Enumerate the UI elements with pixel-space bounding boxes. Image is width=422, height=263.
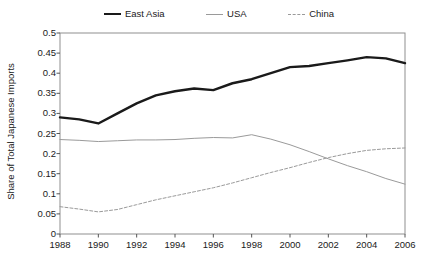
x-tick-label: 1998 (241, 240, 262, 250)
legend-swatch-usa (206, 14, 223, 15)
x-axis-tick-labels: 1988199019921994199619982000200220042006 (0, 240, 422, 260)
line-chart-figure: East Asia USA China Share of Total Japan… (0, 0, 422, 263)
legend-item-china: China (288, 9, 334, 19)
legend-swatch-east-asia (104, 13, 121, 15)
y-tick-label: 0.35 (24, 88, 56, 98)
y-tick-label: 0.1 (24, 189, 56, 199)
y-tick-label: 0.45 (24, 48, 56, 58)
legend-label-east-asia: East Asia (125, 9, 165, 19)
legend-item-east-asia: East Asia (104, 9, 165, 19)
series-line-china (60, 148, 405, 212)
legend-label-china: China (309, 9, 334, 19)
y-tick-label: 0.3 (24, 108, 56, 118)
legend-swatch-china (288, 14, 305, 15)
y-axis-tick-labels: 00.050.10.150.20.250.30.350.40.450.5 (24, 0, 56, 263)
chart-legend: East Asia USA China (104, 6, 334, 22)
x-tick-label: 2002 (318, 240, 339, 250)
y-tick-label: 0.4 (24, 68, 56, 78)
legend-label-usa: USA (227, 9, 247, 19)
y-tick-label: 0 (24, 229, 56, 239)
x-tick-label: 2004 (356, 240, 377, 250)
legend-item-usa: USA (206, 9, 247, 19)
series-line-east-asia (60, 57, 405, 123)
y-tick-label: 0.25 (24, 129, 56, 139)
y-tick-label: 0.5 (24, 28, 56, 38)
y-axis-title: Share of Total Japanese Imports (2, 0, 18, 263)
series-line-usa (60, 135, 405, 184)
x-tick-label: 1996 (203, 240, 224, 250)
x-tick-label: 1988 (49, 240, 70, 250)
plot-area (0, 0, 422, 263)
x-tick-label: 1994 (164, 240, 185, 250)
x-tick-label: 1990 (88, 240, 109, 250)
x-tick-label: 2000 (279, 240, 300, 250)
x-tick-label: 1992 (126, 240, 147, 250)
y-tick-label: 0.15 (24, 169, 56, 179)
x-tick-label: 2006 (394, 240, 415, 250)
y-tick-label: 0.2 (24, 149, 56, 159)
y-tick-label: 0.05 (24, 209, 56, 219)
plot-border (60, 33, 405, 234)
